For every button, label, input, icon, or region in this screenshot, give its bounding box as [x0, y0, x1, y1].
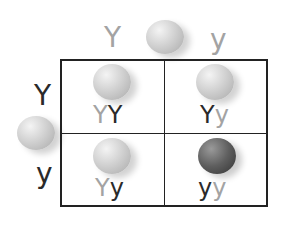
left-allele-y: y: [36, 160, 53, 188]
grid-divider-horizontal: [60, 133, 268, 134]
cell-bl-pea-icon: [93, 138, 131, 174]
cell-tr-genotype: Yy: [200, 103, 229, 127]
cell-bl-genotype: Yy: [95, 176, 124, 200]
cell-tl-genotype: YY: [93, 103, 122, 127]
left-allele-Y: Y: [34, 82, 51, 110]
top-allele-y: y: [210, 26, 227, 54]
top-parent-pea-icon: [146, 20, 184, 54]
cell-tr-pea-icon: [196, 64, 234, 100]
cell-br-pea-icon: [198, 138, 236, 174]
top-allele-Y: Y: [104, 24, 121, 52]
cell-br-genotype: yy: [198, 176, 226, 200]
left-parent-pea-icon: [17, 116, 55, 150]
cell-tl-pea-icon: [93, 64, 131, 100]
